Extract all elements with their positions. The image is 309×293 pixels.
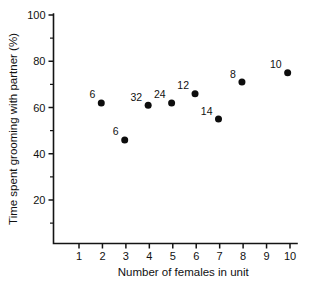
data-point	[238, 79, 245, 86]
x-tick-label: 7	[217, 250, 223, 262]
y-axis-title: Time spent grooming with partner (%)	[7, 33, 19, 225]
data-point-label: 32	[130, 91, 142, 103]
x-tick-label: 10	[284, 250, 296, 262]
y-tick-label: 60	[33, 102, 45, 114]
data-point-label: 24	[154, 88, 166, 100]
data-point-label: 14	[201, 105, 213, 117]
data-point	[145, 102, 152, 109]
x-tick-label: 6	[193, 250, 199, 262]
data-point-label: 6	[113, 125, 119, 137]
x-tick-label: 9	[263, 250, 269, 262]
data-point	[192, 90, 199, 97]
scatter-chart-figure: 20406080100123456789106632241214810Numbe…	[0, 0, 309, 293]
data-point	[284, 69, 291, 76]
x-tick-label: 4	[146, 250, 152, 262]
data-point	[98, 99, 105, 106]
y-tick-label: 100	[27, 9, 45, 21]
x-tick-label: 2	[99, 250, 105, 262]
x-axis-title: Number of females in unit	[118, 266, 250, 278]
data-point	[168, 99, 175, 106]
y-tick-label: 40	[33, 148, 45, 160]
y-tick-label: 80	[33, 55, 45, 67]
data-point	[215, 116, 222, 123]
x-tick-label: 1	[76, 250, 82, 262]
plot-area: 20406080100123456789106632241214810Numbe…	[0, 0, 309, 293]
x-tick-label: 8	[240, 250, 246, 262]
data-point-label: 10	[270, 58, 282, 70]
x-tick-label: 5	[170, 250, 176, 262]
data-point-label: 6	[89, 88, 95, 100]
axis-frame	[54, 14, 298, 244]
y-tick-label: 20	[33, 194, 45, 206]
data-point-label: 8	[230, 68, 236, 80]
data-point-label: 12	[177, 79, 189, 91]
data-point	[121, 136, 128, 143]
x-tick-label: 3	[123, 250, 129, 262]
